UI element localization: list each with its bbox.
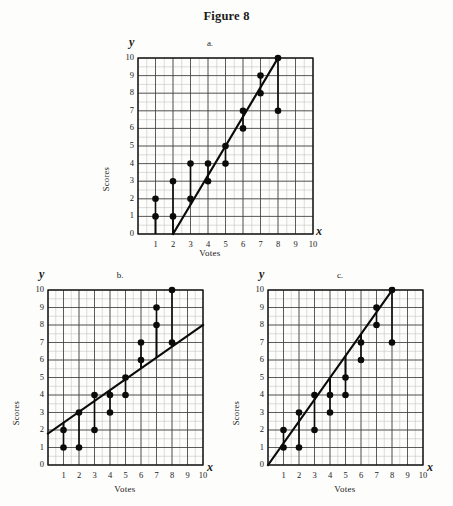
data-point (257, 72, 264, 79)
data-point (389, 339, 396, 346)
x-tick-label: 10 (193, 470, 213, 480)
data-point (389, 287, 396, 294)
data-point (107, 409, 114, 416)
y-tick-label: 10 (116, 52, 134, 62)
panel-b-x-axis-label: Votes (95, 484, 155, 494)
data-point (222, 160, 229, 167)
data-point (240, 125, 247, 132)
data-point (170, 213, 177, 220)
y-tick-label: 6 (246, 354, 264, 364)
data-point (296, 444, 303, 451)
data-point (91, 392, 98, 399)
data-point (373, 322, 380, 329)
y-tick-label: 7 (116, 105, 134, 115)
panel-b-plot (48, 290, 203, 465)
data-point (91, 427, 98, 434)
y-tick-label: 7 (246, 337, 264, 347)
data-point (358, 339, 365, 346)
data-point (205, 178, 212, 185)
data-point (327, 392, 334, 399)
data-point (275, 108, 282, 115)
panel-a-letter: a. (195, 38, 225, 48)
panel-b-y-axis-label: Scores (11, 390, 21, 436)
data-point (311, 427, 318, 434)
panel-b-letter: b. (105, 270, 135, 280)
panel-a-x-axis-label: Votes (180, 248, 240, 258)
panel-c-y-axis-label: Scores (231, 390, 241, 436)
data-point (275, 55, 282, 62)
data-point (257, 90, 264, 97)
y-tick-label: 2 (116, 193, 134, 203)
y-tick-label: 6 (26, 354, 44, 364)
scatter-panel-b: b. y x Scores Votes 012345678910 1234567… (0, 262, 225, 506)
panel-a-y-axis-letter: y (129, 35, 134, 50)
y-tick-label: 1 (116, 210, 134, 220)
panel-c-y-axis-letter: y (259, 267, 264, 282)
data-point (280, 444, 287, 451)
fit-line (268, 288, 394, 465)
scatter-panel-a: a. y x Scores Votes 012345678910 1234567… (0, 30, 330, 265)
data-point (205, 160, 212, 167)
data-point (373, 304, 380, 311)
x-tick-label: 10 (303, 239, 323, 249)
y-tick-label: 2 (26, 424, 44, 434)
y-tick-label: 8 (26, 319, 44, 329)
y-tick-label: 9 (26, 302, 44, 312)
data-point (187, 196, 194, 203)
panel-a-x-axis-letter: x (316, 224, 322, 239)
data-point (222, 143, 229, 150)
y-tick-label: 8 (116, 87, 134, 97)
data-point (138, 357, 145, 364)
data-point (60, 427, 67, 434)
data-point (311, 392, 318, 399)
panel-a-plot (138, 58, 313, 234)
panel-c-plot (268, 290, 423, 465)
data-point (76, 444, 83, 451)
data-point (152, 196, 159, 203)
y-tick-label: 4 (246, 389, 264, 399)
data-point (169, 339, 176, 346)
y-tick-label: 5 (116, 140, 134, 150)
y-tick-label: 5 (26, 372, 44, 382)
data-point (170, 178, 177, 185)
y-tick-label: 10 (26, 284, 44, 294)
data-point (240, 108, 247, 115)
data-point (187, 160, 194, 167)
figure-title: Figure 8 (0, 9, 453, 24)
y-tick-label: 8 (246, 319, 264, 329)
panel-c-x-axis-label: Votes (315, 484, 375, 494)
panel-c-letter: c. (325, 270, 355, 280)
data-point (153, 304, 160, 311)
data-point (327, 409, 334, 416)
data-point (76, 409, 83, 416)
panel-b-y-axis-letter: y (39, 267, 44, 282)
y-tick-label: 9 (246, 302, 264, 312)
data-point (280, 427, 287, 434)
y-tick-label: 10 (246, 284, 264, 294)
y-tick-label: 6 (116, 122, 134, 132)
data-point (169, 287, 176, 294)
y-tick-label: 5 (246, 372, 264, 382)
data-point (342, 392, 349, 399)
data-point (358, 357, 365, 364)
y-tick-label: 0 (116, 228, 134, 238)
y-tick-label: 3 (26, 407, 44, 417)
y-tick-label: 4 (26, 389, 44, 399)
y-tick-label: 0 (26, 459, 44, 469)
y-tick-label: 4 (116, 158, 134, 168)
x-tick-label: 10 (413, 470, 433, 480)
data-point (107, 392, 114, 399)
data-point (296, 409, 303, 416)
data-point (342, 374, 349, 381)
panel-a-y-axis-label: Scores (101, 156, 111, 202)
y-tick-label: 1 (246, 442, 264, 452)
data-point (153, 322, 160, 329)
y-tick-label: 0 (246, 459, 264, 469)
y-tick-label: 3 (116, 175, 134, 185)
data-point (152, 213, 159, 220)
data-point (60, 444, 67, 451)
y-tick-label: 9 (116, 70, 134, 80)
data-point (138, 339, 145, 346)
y-tick-label: 7 (26, 337, 44, 347)
scatter-panel-c: c. y x Scores Votes 012345678910 1234567… (220, 262, 453, 506)
